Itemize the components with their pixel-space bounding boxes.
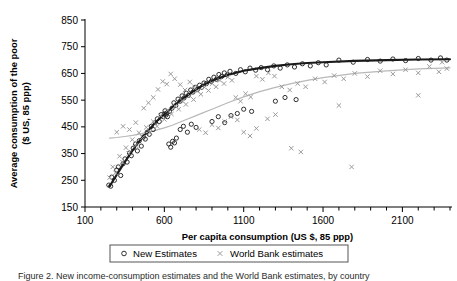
data-point-circle [273, 99, 277, 103]
legend-label-new-estimates: New Estimates [133, 248, 197, 259]
x-axis-title: Per capita consumption (US $, 85 ppp) [182, 231, 353, 242]
y-tick-label: 150 [61, 202, 78, 213]
data-point-circle [235, 111, 239, 115]
y-axis-title: Average consumption of the poor($ US, 85… [8, 38, 31, 188]
y-axis-title-line: Average consumption of the poor [8, 38, 19, 188]
series-open-circle [107, 56, 449, 188]
figure-caption: Figure 2. New income-consumption estimat… [18, 271, 448, 281]
data-point-circle [216, 115, 220, 119]
data-point-circle [169, 145, 173, 149]
data-point-circle [250, 109, 254, 113]
data-point-circle [278, 66, 282, 70]
scatter-chart: 1502503504505506507508501006001100160021… [0, 0, 457, 281]
y-tick-label: 850 [61, 15, 78, 26]
data-point-circle [139, 144, 143, 148]
y-tick-label: 350 [61, 148, 78, 159]
data-point-circle [242, 107, 246, 111]
data-point-circle [189, 122, 193, 126]
y-tick-label: 250 [61, 175, 78, 186]
figure-container: 1502503504505506507508501006001100160021… [0, 0, 457, 281]
data-point-circle [135, 149, 139, 153]
y-axis-title-line: ($ US, 85 ppp) [20, 82, 31, 145]
data-point-circle [228, 69, 232, 73]
data-point-circle [185, 130, 189, 134]
fit-curve [110, 68, 450, 138]
x-tick-label: 600 [156, 215, 173, 226]
data-point-circle [308, 64, 312, 68]
data-point-circle [174, 136, 178, 140]
data-point-circle [324, 63, 328, 67]
data-point-circle [181, 124, 185, 128]
data-point-circle [283, 95, 287, 99]
data-point-circle [292, 65, 296, 69]
data-point-circle [294, 98, 298, 102]
legend-label-world-bank-estimates: World Bank estimates [230, 248, 323, 259]
x-tick-label: 1600 [312, 215, 335, 226]
y-tick-label: 550 [61, 95, 78, 106]
x-tick-label: 1100 [233, 215, 255, 226]
y-tick-label: 750 [61, 41, 78, 52]
y-tick-label: 450 [61, 121, 78, 132]
x-tick-label: 2100 [391, 215, 414, 226]
x-tick-label: 100 [77, 215, 94, 226]
y-tick-label: 650 [61, 68, 78, 79]
data-point-circle [119, 173, 123, 177]
